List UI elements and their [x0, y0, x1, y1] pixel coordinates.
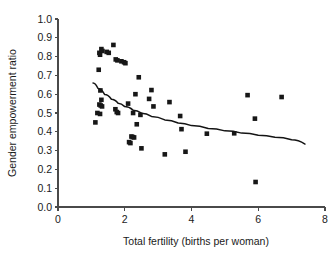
data-point-marker [111, 43, 116, 48]
data-point-marker [253, 180, 258, 185]
data-point-marker [106, 51, 111, 56]
data-point-marker [253, 116, 258, 121]
data-point-marker [115, 58, 120, 63]
y-tick-label: 0.3 [37, 144, 52, 156]
data-point-marker [98, 112, 103, 117]
data-points [93, 43, 284, 185]
y-tick-label: 0.9 [37, 31, 52, 43]
x-axis-title: Total fertility (births per woman) [123, 235, 269, 247]
data-point-marker [183, 149, 188, 154]
data-point-marker [205, 131, 210, 136]
y-tick-label: 0.8 [37, 50, 52, 62]
y-tick-label: 0.2 [37, 163, 52, 175]
data-point-marker [245, 93, 250, 98]
data-point-marker [123, 61, 128, 66]
data-point-marker [133, 92, 138, 97]
y-tick-label: 0.6 [37, 88, 52, 100]
data-point-marker [178, 114, 183, 119]
x-axis-ticks: 02468 [55, 207, 328, 225]
data-point-marker [100, 104, 105, 109]
data-point-marker [93, 120, 98, 125]
data-point-marker [179, 127, 184, 132]
y-axis-title: Gender empowerment ratio [6, 49, 18, 177]
x-tick-label: 2 [122, 213, 128, 225]
data-point-marker [132, 135, 137, 140]
fit-curve [93, 83, 305, 144]
data-point-marker [96, 67, 101, 72]
y-tick-label: 0.1 [37, 182, 52, 194]
y-tick-label: 1.0 [37, 13, 52, 25]
y-tick-label: 0.4 [37, 125, 52, 137]
chart-figure: 0.00.10.20.30.40.50.60.70.80.91.0 02468 … [0, 0, 336, 263]
data-point-marker [149, 88, 154, 93]
y-axis-ticks: 0.00.10.20.30.40.50.60.70.80.91.0 [37, 13, 58, 213]
scatter-plot-svg: 0.00.10.20.30.40.50.60.70.80.91.0 02468 … [0, 0, 336, 263]
x-tick-label: 4 [189, 213, 195, 225]
data-point-marker [147, 97, 152, 102]
data-point-marker [139, 146, 144, 151]
y-tick-label: 0.5 [37, 107, 52, 119]
data-point-marker [136, 75, 141, 80]
data-point-marker [99, 98, 104, 103]
data-point-marker [131, 111, 136, 116]
y-tick-label: 0.0 [37, 201, 52, 213]
data-point-marker [128, 141, 133, 146]
data-point-marker [98, 52, 103, 57]
data-point-marker [151, 104, 156, 109]
x-tick-label: 8 [322, 213, 328, 225]
y-tick-label: 0.7 [37, 69, 52, 81]
data-point-marker [116, 111, 121, 116]
data-point-marker [279, 95, 284, 100]
data-point-marker [167, 100, 172, 105]
data-point-marker [134, 122, 139, 127]
x-tick-label: 6 [255, 213, 261, 225]
x-tick-label: 0 [55, 213, 61, 225]
data-point-marker [163, 152, 168, 157]
data-point-marker [126, 101, 131, 106]
